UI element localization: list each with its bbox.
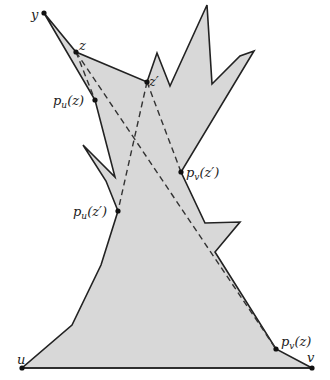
label-z-prime: z′: [148, 74, 159, 89]
point-marker: [41, 10, 46, 15]
point-marker: [115, 208, 120, 213]
label-pv-z-prime: pv(z′): [186, 165, 219, 182]
label-z: z: [78, 38, 86, 53]
label-v: v: [307, 350, 315, 365]
point-marker: [92, 97, 97, 102]
label-pv-z: pv(z): [281, 334, 311, 351]
label-u: u: [17, 352, 25, 367]
point-marker: [178, 169, 183, 174]
label-pu-z: pu(z): [53, 93, 84, 110]
point-marker: [273, 346, 278, 351]
label-y: y: [30, 7, 39, 22]
label-pu-z-prime: pu(z′): [73, 204, 107, 221]
diagram-svg: y z z′ pu(z) pv(z′) pu(z′) pv(z) u v: [0, 0, 330, 380]
point-marker: [73, 49, 78, 54]
diagram-canvas: y z z′ pu(z) pv(z′) pu(z′) pv(z) u v: [0, 0, 330, 380]
point-marker: [309, 365, 314, 370]
